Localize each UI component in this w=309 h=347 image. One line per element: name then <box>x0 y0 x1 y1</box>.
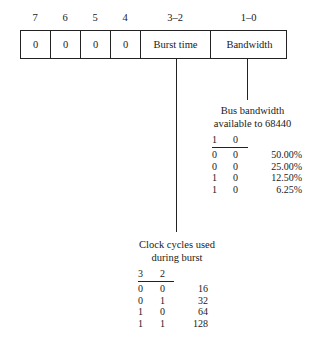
header-bit-0: 0 <box>233 134 238 146</box>
cell-b0: 1 <box>160 295 165 307</box>
table-row: 0 0 25.00% <box>212 161 302 173</box>
bandwidth-caption: Bus bandwidth available to 68440 <box>200 104 305 130</box>
field-bandwidth: Bandwidth <box>211 31 288 58</box>
cell-b0: 0 <box>160 306 165 318</box>
field-bit-7: 0 <box>21 31 51 58</box>
cell-value: 50.00% <box>271 149 302 161</box>
burst-caption-line1: Clock cycles used <box>132 238 222 251</box>
cell-value: 25.00% <box>271 161 302 173</box>
burst-caption: Clock cycles used during burst <box>132 238 222 264</box>
cell-value: 64 <box>198 306 208 318</box>
field-bit-4: 0 <box>111 31 141 58</box>
bandwidth-table-header: 1 0 <box>212 134 248 148</box>
bit-label-6: 6 <box>50 12 80 23</box>
cell-b1: 0 <box>212 161 217 173</box>
cell-b0: 0 <box>233 172 238 184</box>
cell-b0: 0 <box>233 161 238 173</box>
header-bit-1: 1 <box>212 134 217 146</box>
bit-label-7: 7 <box>20 12 50 23</box>
cell-b1: 1 <box>138 306 143 318</box>
cell-b1: 0 <box>138 295 143 307</box>
burst-connector-line <box>176 59 177 232</box>
cell-b1: 1 <box>212 184 217 196</box>
cell-value: 128 <box>193 318 208 330</box>
cell-value: 6.25% <box>276 184 302 196</box>
table-row: 0 1 32 <box>138 295 208 307</box>
cell-b1: 1 <box>138 318 143 330</box>
cell-b0: 0 <box>233 149 238 161</box>
cell-b1: 0 <box>138 283 143 295</box>
cell-b1: 0 <box>212 149 217 161</box>
bit-label-3-2: 3–2 <box>140 12 210 23</box>
burst-table: 3 2 0 0 16 0 1 32 1 0 64 1 1 128 <box>138 268 208 329</box>
cell-b0: 0 <box>160 283 165 295</box>
header-bit-2: 2 <box>160 268 165 280</box>
cell-b0: 0 <box>233 184 238 196</box>
bandwidth-table: 1 0 0 0 50.00% 0 0 25.00% 1 0 12.50% 1 0… <box>212 134 302 195</box>
table-row: 1 0 64 <box>138 306 208 318</box>
bit-label-4: 4 <box>110 12 140 23</box>
register-box: 0 0 0 0 Burst time Bandwidth <box>20 30 287 59</box>
table-row: 0 0 16 <box>138 283 208 295</box>
bandwidth-caption-line1: Bus bandwidth <box>200 104 305 117</box>
cell-value: 12.50% <box>271 172 302 184</box>
bandwidth-connector-line <box>247 59 248 100</box>
cell-value: 32 <box>198 295 208 307</box>
bandwidth-caption-line2: available to 68440 <box>200 117 305 130</box>
field-bit-5: 0 <box>81 31 111 58</box>
burst-caption-line2: during burst <box>132 251 222 264</box>
burst-table-header: 3 2 <box>138 268 174 282</box>
cell-value: 16 <box>198 283 208 295</box>
header-bit-3: 3 <box>138 268 143 280</box>
table-row: 1 0 12.50% <box>212 172 302 184</box>
bit-label-1-0: 1–0 <box>210 12 287 23</box>
bit-label-5: 5 <box>80 12 110 23</box>
field-burst-time: Burst time <box>141 31 211 58</box>
table-row: 1 1 128 <box>138 318 208 330</box>
cell-b1: 1 <box>212 172 217 184</box>
field-bit-6: 0 <box>51 31 81 58</box>
table-row: 0 0 50.00% <box>212 149 302 161</box>
cell-b0: 1 <box>160 318 165 330</box>
table-row: 1 0 6.25% <box>212 184 302 196</box>
